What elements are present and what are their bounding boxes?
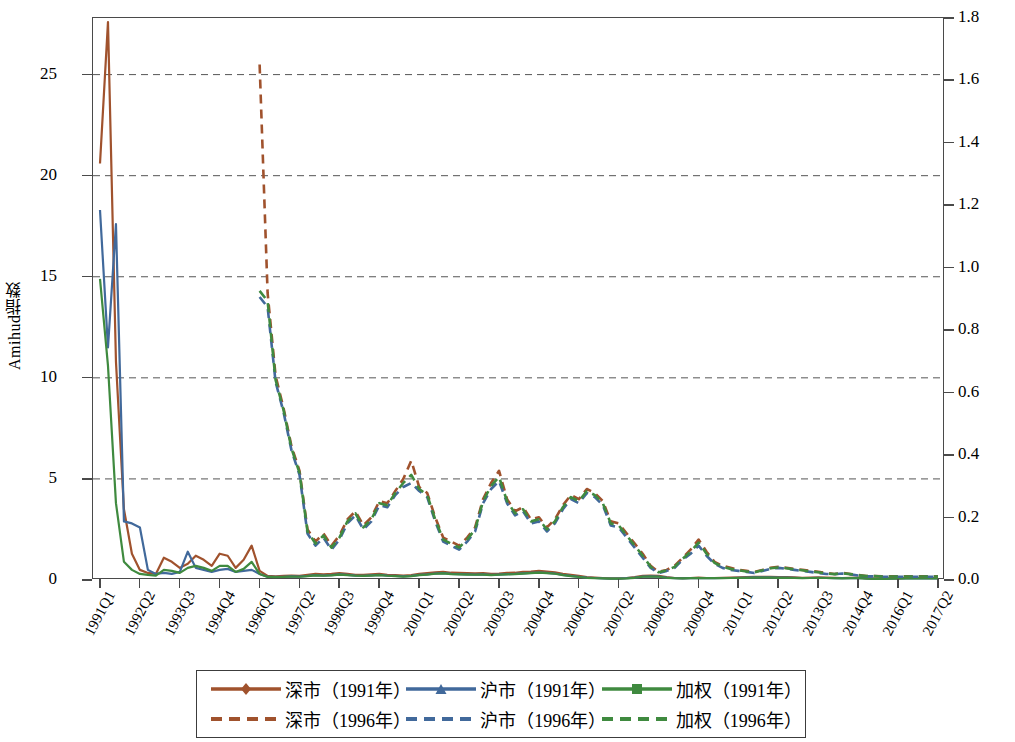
x-tick-mark [299,579,301,588]
legend-item-label: 沪市（1991年） [480,676,606,702]
x-tick-mark [777,579,779,588]
y-right-tick-label: 1.8 [958,8,979,25]
x-tick-mark [219,579,221,588]
legend-item[interactable]: 深市（1996年） [209,706,404,732]
legend-item-label: 加权（1991年） [676,676,802,702]
legend-item-label: 深市（1991年） [285,676,411,702]
y-left-tick-label: 15 [40,267,57,284]
y-left-tick-label: 20 [40,166,57,183]
y-left-tick-mark [82,377,92,379]
legend-swatch-icon [209,680,283,698]
legend-swatch-icon [600,680,674,698]
x-tick-mark [538,579,540,588]
y-left-tick-mark [82,478,92,480]
y-left-tick-label: 0 [49,570,58,587]
legend-item-label: 加权（1996年） [676,706,802,732]
y-right-tick-label: 1.2 [958,195,979,212]
y-left-tick-label: 25 [40,65,57,82]
x-tick-mark [139,579,141,588]
y-axis-left-label: Amihud指数 [2,246,28,406]
legend-item-label: 沪市（1996年） [480,706,606,732]
series-line [260,291,938,577]
y-right-tick-mark [944,79,954,81]
y-left-tick-mark [82,579,92,581]
x-tick-mark [378,579,380,588]
legend-swatch-icon [404,710,478,728]
y-left-tick-mark [82,74,92,76]
x-tick-mark [937,579,939,588]
y-right-tick-label: 0.2 [958,508,979,525]
y-right-tick-mark [944,267,954,269]
series-line [260,297,938,577]
y-left-tick-label: 5 [49,469,58,486]
x-tick-mark [817,579,819,588]
chart-legend: 深市（1991年）沪市（1991年）加权（1991年） 深市（1996年）沪市（… [196,670,806,738]
legend-item[interactable]: 沪市（1996年） [404,706,599,732]
legend-item[interactable]: 加权（1996年） [600,706,795,732]
y-right-tick-label: 0.8 [958,320,979,337]
plot-area [92,17,944,579]
x-tick-mark [737,579,739,588]
x-tick-mark [179,579,181,588]
x-tick-mark [578,579,580,588]
y-right-tick-mark [944,454,954,456]
series-line [100,210,938,579]
legend-item[interactable]: 加权（1991年） [600,676,795,702]
y-right-tick-mark [944,329,954,331]
y-right-tick-mark [944,517,954,519]
y-right-tick-mark [944,17,954,19]
series-line [100,22,938,579]
x-tick-mark [418,579,420,588]
x-tick-mark [338,579,340,588]
series-line [100,279,938,579]
y-left-tick-label: 10 [40,368,57,385]
y-right-tick-mark [944,579,954,581]
legend-row-solid: 深市（1991年）沪市（1991年）加权（1991年） [209,674,795,704]
legend-item[interactable]: 深市（1991年） [209,676,404,702]
y-right-tick-mark [944,142,954,144]
x-tick-mark [99,579,101,588]
x-tick-mark [618,579,620,588]
x-tick-mark [897,579,899,588]
x-tick-mark [458,579,460,588]
x-tick-mark [498,579,500,588]
legend-item[interactable]: 沪市（1991年） [404,676,599,702]
x-tick-mark [658,579,660,588]
y-right-tick-label: 1.6 [958,70,979,87]
legend-swatch-icon [600,710,674,728]
chart-figure: Amihud指数 0510152025 0.00.20.40.60.81.01.… [0,0,1015,742]
legend-swatch-icon [404,680,478,698]
legend-row-dashed: 深市（1996年）沪市（1996年）加权（1996年） [209,704,795,734]
legend-item-label: 深市（1996年） [285,706,411,732]
chart-canvas [93,18,945,580]
y-right-tick-label: 0.6 [958,383,979,400]
x-tick-mark [259,579,261,588]
y-right-tick-label: 1.4 [958,133,979,150]
x-tick-mark [698,579,700,588]
y-right-tick-label: 0.4 [958,445,979,462]
y-right-tick-mark [944,392,954,394]
y-right-tick-label: 1.0 [958,258,979,275]
legend-swatch-icon [209,710,283,728]
y-right-tick-mark [944,204,954,206]
y-left-tick-mark [82,175,92,177]
y-left-tick-mark [82,276,92,278]
x-tick-mark [857,579,859,588]
